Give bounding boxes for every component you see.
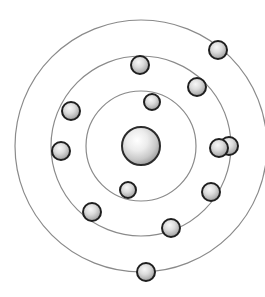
electron-middle-4 <box>83 203 101 221</box>
bohr-atom-diagram <box>0 0 265 297</box>
nucleus-group <box>122 127 160 165</box>
electron-outer-4 <box>137 263 155 281</box>
electron-middle-1 <box>131 56 149 74</box>
electron-middle-2 <box>188 78 206 96</box>
electron-outer-2 <box>210 139 228 157</box>
electron-inner-1 <box>144 94 160 110</box>
electron-middle-5 <box>62 102 80 120</box>
electron-inner-2 <box>120 182 136 198</box>
atom-svg-canvas <box>0 0 265 297</box>
electron-outer-5 <box>52 142 70 160</box>
electron-outer-3 <box>202 183 220 201</box>
electron-outer-1 <box>209 41 227 59</box>
electron-middle-3 <box>162 219 180 237</box>
nucleus <box>122 127 160 165</box>
